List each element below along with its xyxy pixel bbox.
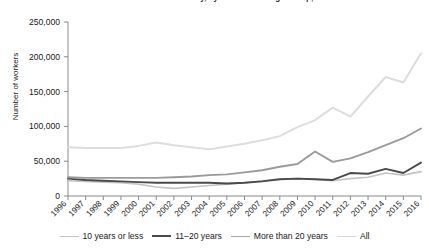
- legend-swatch: [337, 236, 356, 237]
- x-axis-tick-label: 1996: [49, 199, 69, 219]
- x-axis-tick-label: 2014: [367, 199, 387, 219]
- x-axis-tick-label: 2015: [385, 199, 405, 219]
- x-axis-tick-label: 2007: [243, 199, 263, 219]
- x-axis-tick-label: 2004: [190, 199, 210, 219]
- x-axis-tick-label: 2011: [314, 199, 333, 218]
- plot-area: 050,000100,000150,000200,000250,000 1996…: [0, 0, 429, 232]
- x-axis-tick-label: 2013: [349, 199, 369, 219]
- series-line-more-than-20-years: [68, 128, 421, 177]
- x-axis-tick-label: 2010: [296, 199, 316, 219]
- chart-figure: Number of Workers in the Industry, by Ma…: [0, 0, 429, 249]
- legend-label: All: [360, 231, 370, 241]
- y-axis-tick-label: 150,000: [29, 87, 60, 97]
- y-axis-tick-marks: [64, 22, 68, 196]
- y-axis-tick-label: 50,000: [34, 156, 61, 166]
- x-axis-tick-label: 2002: [155, 199, 175, 219]
- y-axis-tick-label: 100,000: [29, 121, 60, 131]
- x-axis-tick-label: 1999: [102, 199, 122, 219]
- legend-label: More than 20 years: [254, 231, 328, 241]
- data-series-group: [68, 53, 421, 188]
- chart-legend: 10 years or less11–20 yearsMore than 20 …: [0, 231, 429, 241]
- x-axis-tick-label: 2009: [279, 199, 299, 219]
- legend-swatch: [231, 236, 250, 237]
- x-axis-tick-label: 2001: [137, 199, 157, 219]
- x-axis-tick-label: 2003: [173, 199, 193, 219]
- legend-item[interactable]: More than 20 years: [231, 231, 328, 241]
- legend-label: 11–20 years: [175, 231, 222, 241]
- x-axis-tick-label: 1998: [84, 199, 104, 219]
- y-axis-tick-labels: 050,000100,000150,000200,000250,000: [29, 17, 60, 201]
- x-axis-tick-label: 2006: [226, 199, 246, 219]
- x-axis-tick-marks: [68, 196, 421, 200]
- x-axis-tick-label: 2016: [402, 199, 422, 219]
- legend-item[interactable]: 10 years or less: [60, 231, 144, 241]
- y-axis-tick-label: 250,000: [29, 17, 60, 27]
- legend-swatch: [152, 235, 171, 237]
- legend-item[interactable]: All: [337, 231, 370, 241]
- series-line-all: [68, 53, 421, 149]
- x-axis-tick-label: 2000: [120, 199, 140, 219]
- y-axis-tick-label: 200,000: [29, 52, 60, 62]
- x-axis-tick-labels: 1996199719981999200020012002200320042005…: [49, 199, 422, 219]
- legend-swatch: [60, 236, 79, 237]
- y-axis-tick-label: 0: [55, 191, 60, 201]
- x-axis-tick-label: 2008: [261, 199, 281, 219]
- legend-item[interactable]: 11–20 years: [152, 231, 222, 241]
- legend-label: 10 years or less: [83, 231, 144, 241]
- x-axis-tick-label: 1997: [67, 199, 87, 219]
- x-axis-tick-label: 2005: [208, 199, 228, 219]
- x-axis-tick-label: 2012: [332, 199, 352, 219]
